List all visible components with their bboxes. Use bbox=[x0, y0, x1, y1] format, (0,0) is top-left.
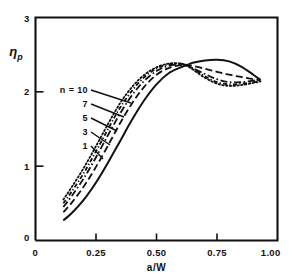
x-tick-label: 0.50 bbox=[147, 247, 167, 258]
legend-label-n-1: 1 bbox=[83, 141, 88, 151]
x-tick-label: 1.00 bbox=[261, 247, 281, 258]
y-tick-label: 0 bbox=[24, 232, 30, 243]
legend-label-n-5: 5 bbox=[83, 113, 88, 123]
y-tick-label: 2 bbox=[24, 86, 30, 97]
legend-label-n-10: n = 10 bbox=[60, 85, 88, 95]
y-tick-label: 1 bbox=[24, 161, 30, 172]
legend-label-n-7: 7 bbox=[83, 99, 88, 109]
x-tick-label: 0.25 bbox=[86, 247, 106, 258]
legend-label-n-3: 3 bbox=[83, 127, 88, 137]
x-axis-title: a/W bbox=[147, 262, 166, 273]
x-tick-label: 0.75 bbox=[207, 247, 227, 258]
y-tick-label: 3 bbox=[24, 13, 30, 24]
chart-background bbox=[0, 0, 296, 277]
figure-container: 00.250.500.751.000123a/Wηpn = 107531 bbox=[0, 0, 296, 277]
chart-plot: 00.250.500.751.000123a/Wηpn = 107531 bbox=[0, 0, 296, 277]
x-tick-label: 0 bbox=[33, 247, 39, 258]
